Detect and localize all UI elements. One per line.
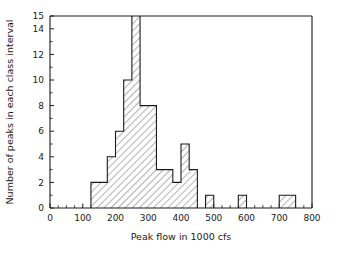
histogram-bar-group-3 [279,195,295,208]
x-axis-tick-labels: 0100200300400500600700800 [47,213,321,223]
x-tick-label-600: 600 [238,213,255,223]
y-tick-label-0: 0 [38,203,44,213]
y-tick-label-8: 8 [38,101,44,111]
y-tick-label-15: 15 [33,11,44,21]
x-tick-label-500: 500 [205,213,222,223]
histogram-figure: 0246810121415 0100200300400500600700800 … [0,0,345,261]
peak-flow-histogram-chart: 0246810121415 0100200300400500600700800 … [0,0,345,261]
x-tick-label-700: 700 [271,213,288,223]
y-tick-label-10: 10 [33,75,45,85]
y-axis-label: Number of peaks in each class interval [4,20,15,205]
x-axis-label: Peak flow in 1000 cfs [131,231,232,242]
y-tick-label-14: 14 [33,24,45,34]
y-tick-label-6: 6 [38,126,44,136]
histogram-bar-group-2 [238,195,246,208]
y-tick-label-12: 12 [33,50,44,60]
x-tick-label-800: 800 [303,213,320,223]
x-tick-label-0: 0 [47,213,53,223]
x-tick-label-100: 100 [74,213,91,223]
histogram-bar-group-1 [206,195,214,208]
y-tick-label-2: 2 [38,178,44,188]
x-tick-label-200: 200 [107,213,124,223]
y-tick-label-4: 4 [38,152,44,162]
x-tick-label-300: 300 [140,213,157,223]
x-tick-label-400: 400 [172,213,189,223]
